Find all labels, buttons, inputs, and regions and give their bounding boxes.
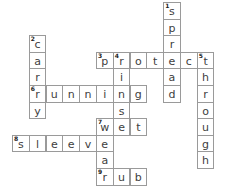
clue-number: 5 <box>199 52 203 60</box>
crossword-cell[interactable]: o <box>197 102 215 120</box>
cell-letter: v <box>80 136 96 152</box>
cell-letter: h <box>198 69 214 85</box>
crossword-cell[interactable]: 5t <box>197 52 215 70</box>
cell-letter: b <box>131 169 147 185</box>
cell-letter: e <box>164 53 180 69</box>
crossword-grid: 1spr2ca3p4rotec5triah6runningdryso7wetu8… <box>0 0 229 193</box>
crossword-cell[interactable]: 6r <box>29 85 47 103</box>
cell-letter: e <box>47 136 63 152</box>
crossword-cell[interactable]: c <box>180 52 198 70</box>
crossword-cell[interactable]: e <box>46 135 64 153</box>
crossword-cell[interactable]: 7w <box>96 118 114 136</box>
clue-number: 8 <box>14 135 18 143</box>
cell-letter: t <box>147 53 163 69</box>
cell-letter: i <box>114 69 130 85</box>
cell-letter: e <box>114 119 130 135</box>
crossword-cell[interactable]: n <box>113 85 131 103</box>
crossword-cell[interactable]: n <box>79 85 97 103</box>
cell-letter: s <box>114 103 130 119</box>
crossword-cell[interactable]: r <box>163 35 181 53</box>
crossword-cell[interactable]: a <box>96 151 114 169</box>
crossword-cell[interactable]: l <box>29 135 47 153</box>
crossword-cell[interactable]: a <box>163 68 181 86</box>
clue-number: 7 <box>98 118 102 126</box>
crossword-cell[interactable]: v <box>79 135 97 153</box>
cell-letter: a <box>97 152 113 168</box>
cell-letter: p <box>164 20 180 36</box>
cell-letter: n <box>114 86 130 102</box>
clue-number: 1 <box>165 2 169 10</box>
cell-letter: e <box>97 136 113 152</box>
clue-number: 3 <box>98 52 102 60</box>
crossword-cell[interactable]: y <box>29 102 47 120</box>
crossword-cell[interactable]: 9r <box>96 168 114 186</box>
crossword-cell[interactable]: i <box>96 85 114 103</box>
cell-letter: u <box>198 119 214 135</box>
crossword-cell[interactable]: e <box>62 135 80 153</box>
crossword-cell[interactable]: d <box>163 85 181 103</box>
cell-letter: l <box>30 136 46 152</box>
crossword-cell[interactable]: 8s <box>12 135 30 153</box>
crossword-cell[interactable]: o <box>130 52 148 70</box>
crossword-cell[interactable]: 3p <box>96 52 114 70</box>
crossword-cell[interactable]: t <box>130 118 148 136</box>
crossword-cell[interactable]: u <box>113 168 131 186</box>
cell-letter: n <box>63 86 79 102</box>
cell-letter: i <box>97 86 113 102</box>
cell-letter: n <box>80 86 96 102</box>
crossword-cell[interactable]: t <box>146 52 164 70</box>
cell-letter: c <box>181 53 197 69</box>
crossword-cell[interactable]: i <box>113 68 131 86</box>
crossword-cell[interactable]: e <box>163 52 181 70</box>
clue-number: 2 <box>31 35 35 43</box>
cell-letter: o <box>131 53 147 69</box>
cell-letter: g <box>131 86 147 102</box>
cell-letter: r <box>30 69 46 85</box>
crossword-cell[interactable]: n <box>62 85 80 103</box>
crossword-cell[interactable]: 1s <box>163 2 181 20</box>
cell-letter: r <box>198 86 214 102</box>
cell-letter: r <box>164 36 180 52</box>
cell-letter: e <box>63 136 79 152</box>
crossword-cell[interactable]: h <box>197 68 215 86</box>
clue-number: 6 <box>31 85 35 93</box>
crossword-cell[interactable]: p <box>163 19 181 37</box>
cell-letter: g <box>198 136 214 152</box>
crossword-cell[interactable]: r <box>197 85 215 103</box>
cell-letter: h <box>198 152 214 168</box>
crossword-cell[interactable]: g <box>197 135 215 153</box>
cell-letter: o <box>198 103 214 119</box>
crossword-cell[interactable]: a <box>29 52 47 70</box>
crossword-cell[interactable]: g <box>130 85 148 103</box>
cell-letter: a <box>164 69 180 85</box>
crossword-cell[interactable]: e <box>113 118 131 136</box>
cell-letter: u <box>47 86 63 102</box>
cell-letter: a <box>30 53 46 69</box>
crossword-cell[interactable]: u <box>46 85 64 103</box>
crossword-cell[interactable]: 4r <box>113 52 131 70</box>
clue-number: 4 <box>115 52 119 60</box>
crossword-cell[interactable]: u <box>197 118 215 136</box>
crossword-cell[interactable]: s <box>113 102 131 120</box>
crossword-cell[interactable]: r <box>29 68 47 86</box>
clue-number: 9 <box>98 168 102 176</box>
crossword-cell[interactable]: e <box>96 135 114 153</box>
cell-letter: y <box>30 103 46 119</box>
cell-letter: t <box>131 119 147 135</box>
crossword-cell[interactable]: b <box>130 168 148 186</box>
crossword-cell[interactable]: h <box>197 151 215 169</box>
cell-letter: u <box>114 169 130 185</box>
cell-letter: d <box>164 86 180 102</box>
crossword-cell[interactable]: 2c <box>29 35 47 53</box>
